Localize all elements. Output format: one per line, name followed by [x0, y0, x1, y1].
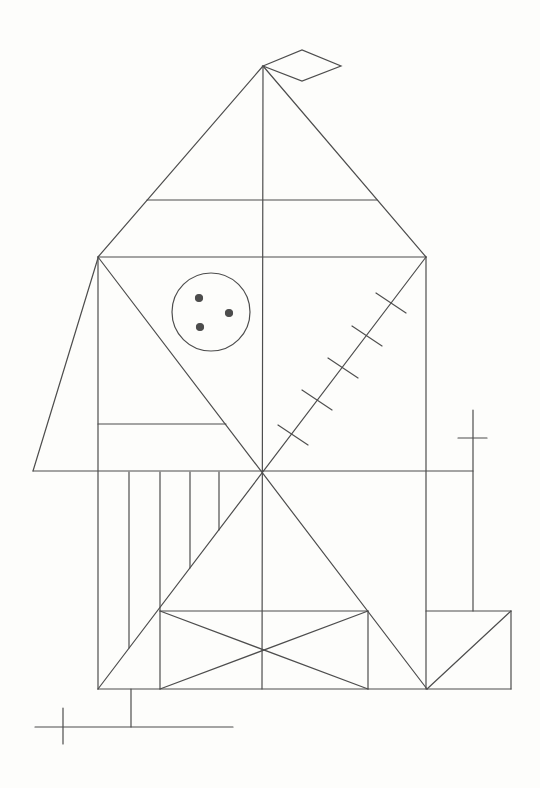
left-flap-edge	[33, 258, 98, 471]
hatch-tick-1	[278, 425, 308, 445]
drawing-page	[0, 0, 540, 788]
hatch-tick-3	[328, 358, 358, 378]
dotted-circle-dot-1	[196, 295, 203, 302]
vertical-midline	[262, 66, 263, 689]
flag-diamond	[263, 50, 341, 81]
dotted-circle-dot-3	[197, 324, 204, 331]
hatch-tick-4	[352, 326, 382, 346]
right-block-diagonal	[427, 611, 511, 689]
hatch-tick-5	[376, 293, 406, 313]
roof-right-edge	[263, 66, 426, 257]
dotted-circle	[172, 273, 250, 351]
dotted-circle-dot-2	[226, 310, 233, 317]
hatch-tick-2	[302, 390, 332, 410]
roof-left-edge	[98, 66, 263, 257]
complex-figure-svg	[0, 0, 540, 788]
